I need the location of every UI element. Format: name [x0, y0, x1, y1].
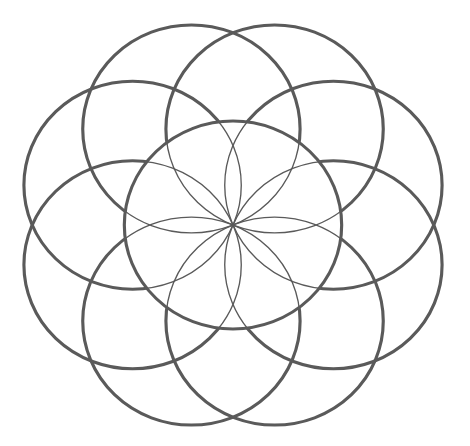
inner-petals-thin — [24, 25, 442, 425]
rosette-diagram — [0, 0, 470, 446]
rosette-group — [24, 25, 442, 425]
